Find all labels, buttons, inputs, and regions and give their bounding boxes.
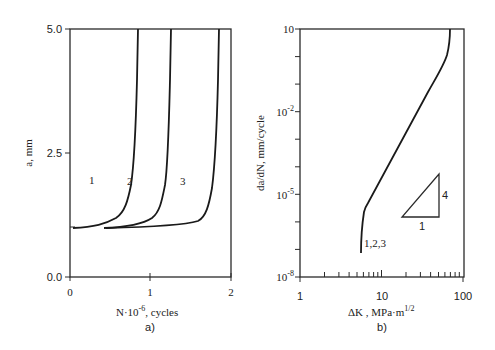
b-xtick-1: 1 (297, 290, 303, 302)
slope-triangle (402, 174, 439, 217)
panel-a-frame (70, 29, 231, 277)
b-curve-label: 1,2,3 (364, 237, 387, 249)
b-x-axis-label: ΔK , MPa·m1/2 (348, 304, 415, 318)
a-y-axis-label: a, mm (22, 139, 34, 167)
b-ytick-1e-5: 10-5 (276, 187, 294, 201)
slope-run-label: 1 (419, 220, 425, 232)
b-xtick-100: 100 (454, 290, 472, 302)
panel-a: 5.0 2.5 0.0 0 1 2 a, mm N·10-6, cycles a… (22, 23, 234, 333)
b-ytick-1e-2: 10-2 (276, 104, 294, 118)
b-y-axis-label: da/dN, mm/cycle (254, 115, 266, 191)
panel-b: 10 10-2 10-5 10-8 1 10 100 da/dN, mm/cyc… (254, 23, 472, 333)
a-panel-label: a) (145, 321, 155, 333)
slope-rise-label: 4 (442, 189, 448, 201)
b-ytick-10: 10 (283, 23, 295, 35)
a-xtick-1: 1 (147, 286, 153, 298)
b-ytick-1e-8: 10-8 (276, 269, 294, 283)
a-curve-1-label: 1 (89, 174, 95, 186)
a-ytick-0: 0.0 (47, 271, 62, 283)
a-xtick-0: 0 (67, 286, 73, 298)
a-curve-3-label: 3 (180, 175, 186, 187)
figure: 5.0 2.5 0.0 0 1 2 a, mm N·10-6, cycles a… (0, 0, 495, 350)
b-xtick-10: 10 (376, 290, 388, 302)
b-x-ticks (300, 270, 463, 282)
a-curve-2-label: 2 (127, 175, 133, 187)
a-ytick-5: 5.0 (47, 23, 62, 35)
b-y-ticks (295, 29, 300, 277)
a-x-axis-label: N·10-6, cycles (116, 304, 178, 318)
a-ytick-2.5: 2.5 (47, 147, 62, 159)
b-panel-label: b) (377, 321, 387, 333)
b-curve-1-2-3 (361, 29, 450, 253)
a-curve-1 (73, 29, 138, 228)
a-xtick-2: 2 (228, 286, 234, 298)
